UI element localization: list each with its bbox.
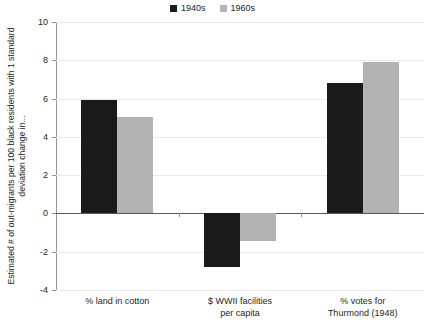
gridline [56, 60, 424, 61]
y-tick-label: 0 [26, 209, 48, 218]
plot-area [56, 22, 424, 290]
y-tick-label: 10 [26, 18, 48, 27]
x-axis-label-line: $ WWII facilities [179, 296, 302, 308]
bar-chart: 1940s 1960s Estimated # of out-migrants … [0, 0, 425, 325]
x-axis-label-line: % votes for [301, 296, 424, 308]
y-tick-label: 8 [26, 56, 48, 65]
y-tick-label: 2 [26, 171, 48, 180]
x-axis-label-0: % land in cotton [56, 296, 179, 308]
y-tick-label: 4 [26, 132, 48, 141]
y-tick-label: -2 [26, 247, 48, 256]
bar-1940s-$ WWII facilities per capita[interactable] [204, 213, 240, 267]
x-axis-group-tick [301, 213, 302, 217]
bar-1940s-% votes for Thurmond (1948)[interactable] [327, 83, 363, 213]
gridline [56, 22, 424, 23]
x-axis-label-1: $ WWII facilitiesper capita [179, 296, 302, 319]
bar-1960s-$ WWII facilities per capita[interactable] [240, 213, 276, 241]
bar-1960s-% land in cotton[interactable] [117, 117, 153, 214]
x-axis-label-line: % land in cotton [56, 296, 179, 308]
bar-1940s-% land in cotton[interactable] [81, 100, 117, 214]
x-axis-label-line: Thurmond (1948) [301, 308, 424, 320]
x-axis-group-tick [179, 213, 180, 217]
gridline [56, 252, 424, 253]
y-tick-label: 6 [26, 94, 48, 103]
x-axis-label-2: % votes forThurmond (1948) [301, 296, 424, 319]
x-axis-label-line: per capita [179, 308, 302, 320]
bar-1960s-% votes for Thurmond (1948)[interactable] [363, 62, 399, 213]
gridline [56, 290, 424, 291]
y-tick-label: -4 [26, 286, 48, 295]
